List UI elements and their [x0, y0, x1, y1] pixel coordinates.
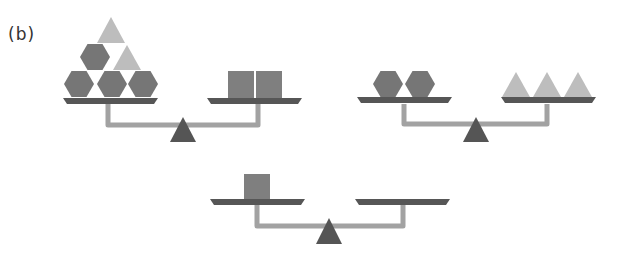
- scale-3-right-pan: [355, 199, 450, 205]
- scale-2-fulcrum-icon: [463, 117, 489, 142]
- hexagon-icon: [373, 71, 403, 97]
- scale-1-left-pan: [63, 98, 158, 104]
- hexagon-icon: [128, 71, 158, 97]
- square-icon: [228, 71, 254, 98]
- triangle-icon: [564, 72, 592, 97]
- scale-3: [210, 174, 450, 244]
- triangle-icon: [97, 17, 125, 43]
- scale-1-right-pan: [207, 98, 302, 104]
- triangle-icon: [502, 72, 530, 97]
- scale-2-right-pan: [501, 97, 596, 103]
- hexagon-icon: [97, 71, 127, 97]
- scale-2-left-pan: [357, 97, 452, 103]
- triangle-icon: [113, 45, 141, 70]
- scale-3-fulcrum-icon: [316, 218, 342, 244]
- hexagon-icon: [64, 71, 94, 97]
- scale-1-fulcrum-icon: [170, 117, 196, 142]
- balance-scales-diagram: [0, 0, 621, 257]
- scale-3-left-pan: [210, 199, 305, 205]
- triangle-icon: [533, 72, 561, 97]
- square-icon: [244, 174, 270, 199]
- square-icon: [256, 71, 282, 98]
- hexagon-icon: [405, 71, 435, 97]
- scale-1: [63, 17, 302, 142]
- scale-2: [357, 71, 596, 142]
- hexagon-icon: [80, 44, 110, 70]
